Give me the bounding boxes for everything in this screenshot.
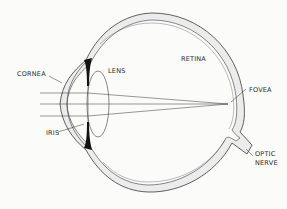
label-retina: RETINA xyxy=(181,55,206,63)
label-optic-nerve-2: NERVE xyxy=(255,159,278,167)
label-iris: IRIS xyxy=(46,129,59,137)
label-lens: LENS xyxy=(108,67,126,75)
sclera xyxy=(60,13,252,192)
label-cornea: CORNEA xyxy=(17,70,46,78)
label-optic-nerve-1: OPTIC xyxy=(255,150,276,158)
cornea-leader xyxy=(49,76,62,83)
label-fovea: FOVEA xyxy=(249,86,272,94)
eye-diagram: CORNEA LENS RETINA FOVEA IRIS OPTIC NERV… xyxy=(0,0,287,209)
